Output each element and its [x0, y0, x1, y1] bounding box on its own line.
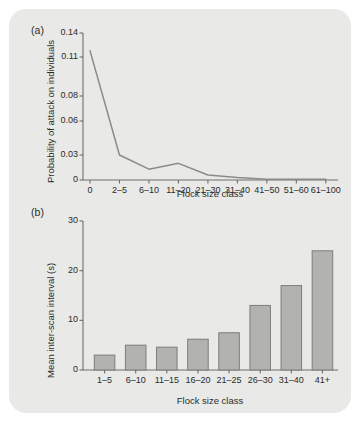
- panel-b: (b) Mean inter-scan interval (s) Flock s…: [0, 200, 361, 423]
- bar: [157, 347, 178, 370]
- bar: [219, 333, 240, 370]
- bar: [250, 305, 271, 370]
- panel-b-x-axis-title: Flock size class: [130, 395, 290, 406]
- bar: [125, 345, 146, 370]
- bar: [188, 339, 209, 370]
- panel-a: (a) Probability of attack on individuals…: [0, 0, 361, 200]
- bar: [312, 251, 333, 370]
- bar: [281, 286, 302, 370]
- panel-b-plot: [0, 200, 361, 423]
- figure-root: (a) Probability of attack on individuals…: [0, 0, 361, 423]
- bar: [94, 355, 115, 370]
